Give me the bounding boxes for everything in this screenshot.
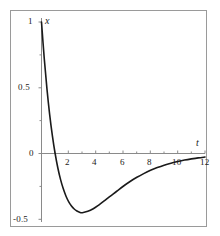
- x-tick-label-6: 6: [120, 158, 125, 167]
- axes-group: [41, 18, 205, 222]
- y-tick-label-minus-05: -0.5: [13, 215, 28, 224]
- x-tick-label-2: 2: [65, 158, 70, 167]
- plot-canvas: [0, 0, 220, 236]
- x-tick-label-8: 8: [147, 158, 152, 167]
- x-tick-label-12: 12: [200, 158, 209, 167]
- y-tick-label-05: 0.5: [18, 83, 30, 92]
- y-axis-label: x: [45, 16, 49, 26]
- y-tick-label-0: 0: [29, 149, 34, 158]
- figure: 1 0.5 0 -0.5 2 4 6 8 10 12 x t: [0, 0, 220, 236]
- x-tick-label-10: 10: [172, 158, 181, 167]
- data-curve: [42, 22, 206, 213]
- x-tick-label-4: 4: [92, 158, 97, 167]
- y-tick-label-1: 1: [28, 17, 33, 26]
- x-axis-label: t: [196, 138, 199, 148]
